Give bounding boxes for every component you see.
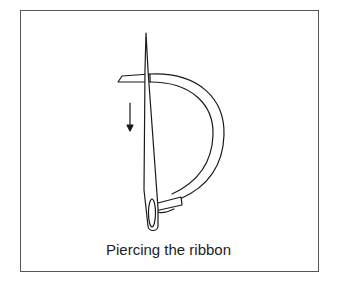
needle-eye xyxy=(149,199,156,227)
figure-caption: Piercing the ribbon xyxy=(0,241,337,258)
direction-arrow xyxy=(127,103,133,131)
ribbon-inner-edge xyxy=(150,82,213,194)
arrow-head xyxy=(127,125,133,131)
ribbon xyxy=(118,74,224,213)
needle xyxy=(144,33,158,231)
